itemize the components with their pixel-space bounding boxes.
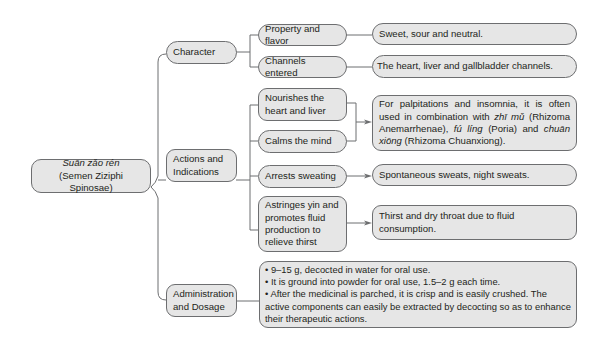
category-dosage: Administration and Dosage	[166, 284, 237, 317]
thirst-detail: Thirst and dry throat due to fluid consu…	[372, 205, 577, 240]
palpitations-detail: For palpitations and insomnia, it is oft…	[372, 95, 577, 151]
nourishes-node: Nourishes the heart and liver	[258, 88, 347, 121]
dosage-bullet: • It is ground into powder for oral use,…	[265, 276, 571, 288]
bullet-dot-icon: •	[265, 276, 268, 287]
detail-text-part: (Rhizoma Chuanxiong).	[402, 135, 505, 146]
property-flavor-node: Property and flavor	[258, 24, 347, 46]
bullet-dot-icon: •	[265, 264, 268, 275]
dosage-bullet-text: After the medicinal is parched, it is cr…	[265, 288, 571, 323]
nourishes-label: Nourishes the heart and liver	[265, 92, 340, 117]
channels-entered-label: Channels entered	[265, 55, 340, 80]
dosage-detail: • 9–15 g, decocted in water for oral use…	[259, 261, 577, 328]
channels-entered-detail-text: The heart, liver and gallbladder channel…	[377, 60, 553, 72]
herb-fuling: fú líng	[454, 123, 483, 134]
dosage-bullet: • 9–15 g, decocted in water for oral use…	[265, 264, 571, 276]
herb-zhimu: zhī mǔ	[494, 111, 524, 122]
sweating-detail-text: Spontaneous sweats, night sweats.	[379, 169, 529, 181]
property-flavor-label: Property and flavor	[265, 23, 340, 48]
dosage-bullet-list: • 9–15 g, decocted in water for oral use…	[265, 264, 571, 325]
palpitations-detail-text: For palpitations and insomnia, it is oft…	[379, 98, 570, 148]
thirst-detail-text: Thirst and dry throat due to fluid consu…	[379, 210, 570, 235]
arrests-sweating-node: Arrests sweating	[258, 165, 347, 188]
channels-entered-node: Channels entered	[258, 56, 347, 78]
bullet-dot-icon: •	[265, 288, 268, 299]
category-actions-label: Actions and Indications	[173, 153, 230, 178]
root-pinyin: Suān zǎo rén	[62, 157, 119, 169]
arrests-sweating-label: Arrests sweating	[265, 170, 336, 182]
category-character: Character	[166, 41, 237, 64]
dosage-bullet-text: 9–15 g, decocted in water for oral use.	[271, 264, 430, 275]
calms-mind-label: Calms the mind	[265, 135, 332, 147]
astringes-yin-label: Astringes yin and promotes fluid product…	[265, 199, 340, 249]
root-latin: (Semen Ziziphi Spinosae)	[38, 170, 144, 195]
category-dosage-label: Administration and Dosage	[173, 288, 234, 313]
channels-entered-detail: The heart, liver and gallbladder channel…	[372, 55, 577, 78]
astringes-yin-node: Astringes yin and promotes fluid product…	[258, 196, 347, 252]
category-character-label: Character	[173, 46, 215, 58]
detail-text-part: (Poria) and	[483, 123, 544, 134]
root-node: Suān zǎo rén (Semen Ziziphi Spinosae)	[31, 159, 151, 193]
dosage-bullet: • After the medicinal is parched, it is …	[265, 288, 571, 325]
calms-mind-node: Calms the mind	[258, 130, 347, 153]
category-actions: Actions and Indications	[166, 149, 237, 182]
property-flavor-detail-text: Sweet, sour and neutral.	[379, 28, 483, 40]
property-flavor-detail: Sweet, sour and neutral.	[372, 23, 577, 45]
sweating-detail: Spontaneous sweats, night sweats.	[372, 164, 577, 186]
dosage-bullet-text: It is ground into powder for oral use, 1…	[271, 276, 500, 287]
